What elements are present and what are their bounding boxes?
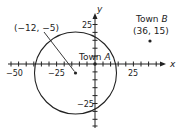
circle-center-point — [74, 71, 77, 74]
circle-center-label: (−12, −5) — [14, 23, 59, 33]
y-tick-label: 25 — [82, 21, 92, 30]
x-axis-label: x — [169, 59, 176, 69]
town-b-coords-label: (36, 15) — [133, 26, 169, 36]
town-b-point — [148, 39, 151, 42]
y-axis-label: y — [96, 4, 103, 14]
y-tick-label: −25 — [77, 100, 94, 109]
town-a-label: Town A — [78, 52, 111, 62]
coordinate-diagram: x y −50 −25 25 25 −25 (−12, −5) Town A T… — [0, 0, 179, 136]
x-tick-label: 25 — [128, 69, 138, 78]
x-tick-label: −50 — [6, 69, 23, 78]
x-axis-arrow-icon — [160, 62, 166, 67]
town-b-label: Town B — [135, 14, 168, 24]
x-tick-label: −25 — [48, 69, 65, 78]
town-a-point — [93, 62, 97, 66]
